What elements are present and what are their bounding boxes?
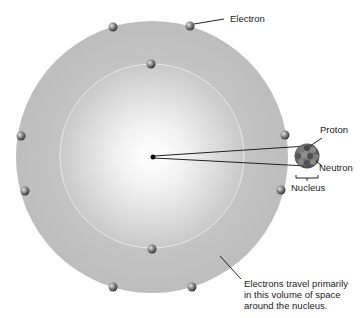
electron-icon (17, 132, 26, 141)
electron-icon (186, 22, 195, 31)
electron-icon (147, 60, 156, 69)
note-line-1: Electrons travel primarily (244, 278, 348, 289)
center-point (151, 155, 156, 160)
electron-icon (109, 23, 118, 32)
electron-icon (21, 187, 30, 196)
electron-icon (109, 283, 118, 292)
neutron-label: Neutron (319, 162, 353, 173)
electron-icon (281, 131, 290, 140)
electron-label: Electron (230, 13, 265, 24)
note-line-3: around the nucleus. (244, 300, 348, 311)
proton-label: Proton (320, 124, 348, 135)
atom-diagram (0, 0, 362, 318)
electron-icon (188, 283, 197, 292)
nucleus-label: Nucleus (291, 182, 325, 193)
nucleus-bracket (296, 175, 318, 181)
nucleus-icon (295, 144, 320, 169)
note-line-2: in this volume of space (244, 289, 348, 300)
electron-icon (277, 186, 286, 195)
electron-icon (148, 245, 157, 254)
electron-volume-note: Electrons travel primarily in this volum… (244, 278, 348, 311)
electron-label-line (194, 19, 224, 24)
proton-label-line (310, 138, 322, 146)
